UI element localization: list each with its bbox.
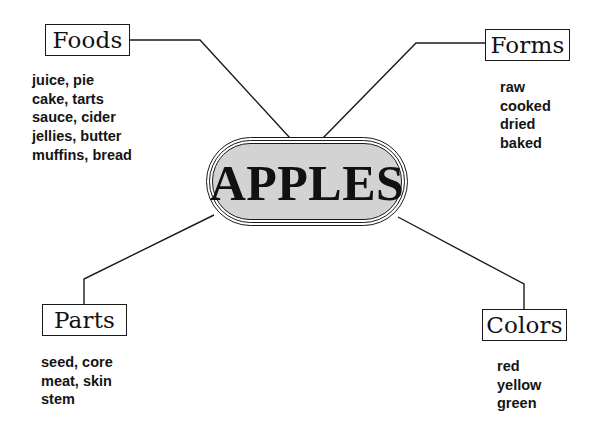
list-item: dried — [500, 115, 551, 134]
branch-colors-title: Colors — [486, 312, 563, 338]
branch-parts-list: seed, core meat, skin stem — [41, 353, 113, 409]
list-item: stem — [41, 390, 113, 409]
branch-colors-box: Colors — [482, 309, 567, 341]
connector-parts — [84, 215, 214, 304]
center-label: APPLES — [210, 154, 405, 212]
list-item: cooked — [500, 97, 551, 116]
list-item: red — [497, 357, 541, 376]
connector-foods — [129, 40, 290, 138]
branch-foods-list: juice, pie cake, tarts sauce, cider jell… — [32, 71, 132, 165]
list-item: sauce, cider — [32, 108, 132, 127]
branch-foods-title: Foods — [53, 27, 123, 53]
list-item: raw — [500, 78, 551, 97]
branch-parts-box: Parts — [42, 304, 127, 336]
branch-forms-list: raw cooked dried baked — [500, 78, 551, 153]
branch-foods-box: Foods — [45, 24, 130, 56]
center-node-inner: APPLES — [212, 143, 402, 220]
list-item: seed, core — [41, 353, 113, 372]
connector-colors — [398, 217, 524, 309]
list-item: muffins, bread — [32, 146, 132, 165]
list-item: meat, skin — [41, 372, 113, 391]
list-item: baked — [500, 134, 551, 153]
branch-colors-list: red yellow green — [497, 357, 541, 413]
list-item: green — [497, 394, 541, 413]
list-item: juice, pie — [32, 71, 132, 90]
list-item: yellow — [497, 376, 541, 395]
branch-forms-title: Forms — [490, 32, 564, 58]
branch-forms-box: Forms — [485, 29, 570, 61]
connector-forms — [323, 43, 485, 138]
branch-parts-title: Parts — [54, 307, 115, 333]
list-item: jellies, butter — [32, 127, 132, 146]
center-node: APPLES — [206, 137, 408, 226]
list-item: cake, tarts — [32, 90, 132, 109]
